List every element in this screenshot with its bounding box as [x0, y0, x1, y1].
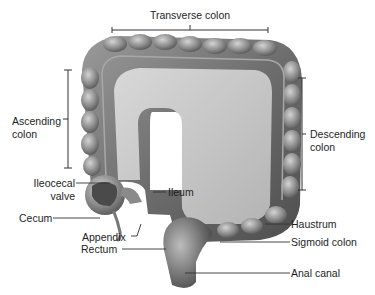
- label-transverse-colon: Transverse colon: [120, 9, 260, 21]
- label-ileum: Ileum: [168, 186, 194, 198]
- label-sigmoid-colon: Sigmoid colon: [291, 236, 357, 248]
- label-cecum: Cecum: [19, 212, 52, 224]
- label-descending-colon-line2: colon: [310, 141, 335, 153]
- label-descending-colon-line1: Descending: [310, 128, 365, 140]
- label-anal-canal: Anal canal: [291, 267, 340, 279]
- colon-diagram: Transverse colon Ascending colon Descend…: [0, 0, 375, 295]
- label-ascending-colon-line2: colon: [12, 128, 37, 140]
- label-haustrum: Haustrum: [291, 218, 337, 230]
- label-ascending-colon-line1: Ascending: [12, 115, 61, 127]
- label-ileocecal-valve-line1: Ileocecal: [20, 177, 75, 189]
- label-ileocecal-valve-line2: valve: [20, 190, 75, 202]
- label-rectum: Rectum: [81, 243, 117, 255]
- rectum: [163, 217, 212, 288]
- label-appendix: Appendix: [82, 231, 126, 243]
